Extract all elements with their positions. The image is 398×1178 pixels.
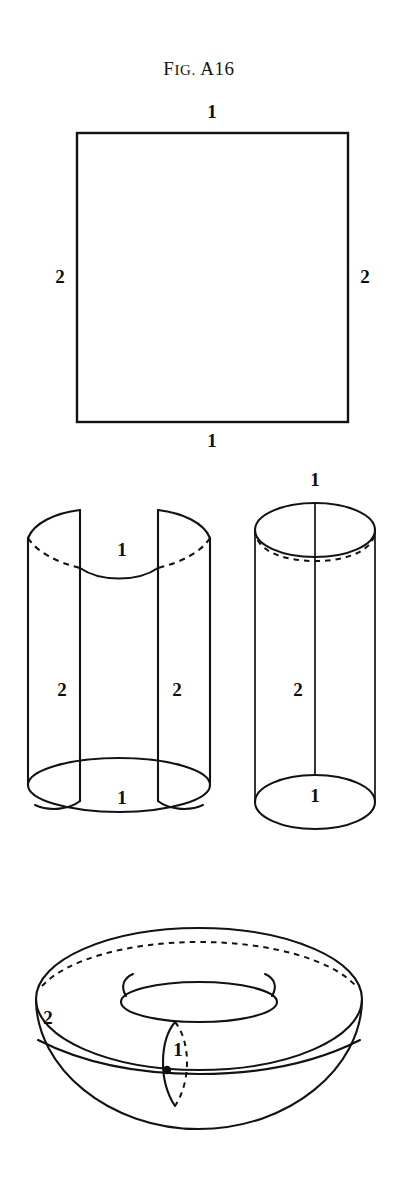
torus-top-outer-ellipse (36, 928, 362, 1070)
open-cylinder-back-rim-right-dashed (158, 538, 210, 568)
open-cylinder-label-left-seam: 2 (57, 679, 67, 700)
torus-front-outer-silhouette (36, 999, 362, 1129)
torus-meridian-solid-arc (163, 1022, 175, 1106)
figure-container: FIG. A16 1 1 2 2 (0, 0, 398, 1178)
open-cylinder-top-left-flap (28, 510, 80, 538)
closed-cylinder-label-top: 1 (310, 469, 320, 490)
closed-cylinder-label-seam: 2 (293, 679, 303, 700)
open-cylinder-front-rim-arc (80, 568, 158, 579)
torus-equator-line (38, 1040, 360, 1074)
square-outline (77, 133, 348, 422)
square-label-bottom: 1 (207, 430, 217, 451)
torus-hidden-back-rim-dashed (42, 942, 356, 986)
torus-label-outer-edge: 2 (43, 1007, 53, 1028)
square-panel: 1 1 2 2 (0, 0, 398, 470)
torus-label-meridian: 1 (173, 1039, 183, 1060)
torus-basepoint-dot (163, 1066, 171, 1074)
open-cylinder-label-right-seam: 2 (172, 679, 182, 700)
square-label-left: 2 (55, 266, 65, 287)
square-label-top: 1 (207, 101, 217, 122)
open-cylinder-group: 1 2 2 1 (28, 510, 210, 812)
torus-meridian-dashed-arc (175, 1022, 187, 1106)
square-label-right: 2 (360, 266, 370, 287)
cylinders-panel: 1 2 2 1 1 2 1 (0, 460, 398, 860)
open-cylinder-top-right-flap (158, 510, 210, 538)
open-cylinder-back-rim-left-dashed (28, 538, 80, 568)
open-cylinder-label-bottom-arc: 1 (117, 787, 127, 808)
torus-panel: 2 1 (0, 868, 398, 1178)
open-cylinder-label-top-arc: 1 (117, 539, 127, 560)
torus-inner-hole-ellipse (121, 982, 277, 1022)
closed-cylinder-label-bottom: 1 (310, 785, 320, 806)
closed-cylinder-group: 1 2 1 (255, 469, 375, 829)
